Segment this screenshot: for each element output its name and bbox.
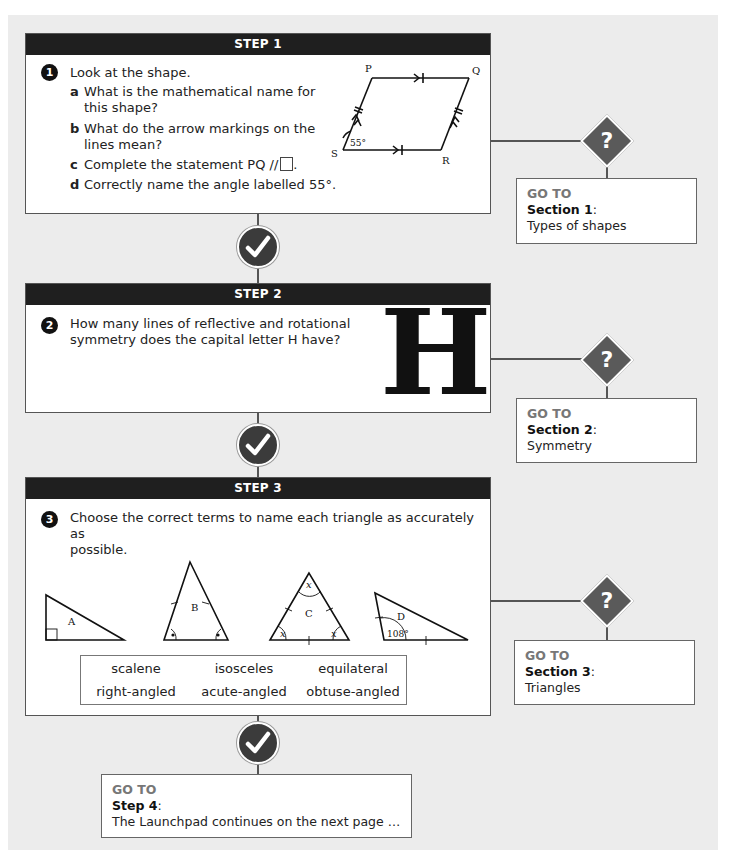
part-text: this shape? bbox=[70, 100, 158, 115]
goto-label: GO TO bbox=[527, 186, 686, 202]
vertex-q: Q bbox=[472, 65, 480, 76]
goto-desc: The Launchpad continues on the next page… bbox=[112, 814, 401, 830]
angle-dot bbox=[216, 633, 219, 636]
triangle-a bbox=[46, 595, 124, 640]
triangles-diagram: A B C x x x D 108° bbox=[26, 556, 486, 656]
triangle-b bbox=[164, 562, 228, 640]
goto-label: GO TO bbox=[525, 648, 684, 664]
vertex-r: R bbox=[442, 155, 450, 166]
question-line: How many lines of reflective and rotatio… bbox=[70, 316, 350, 331]
part-letter: b bbox=[70, 121, 84, 137]
vertex-p: P bbox=[365, 63, 372, 74]
question-number: 1 bbox=[41, 64, 58, 81]
question-text: Look at the shape. bbox=[70, 65, 191, 81]
part-text: Complete the statement PQ // bbox=[84, 157, 278, 172]
step-2-box: STEP 2 2 How many lines of reflective an… bbox=[25, 283, 491, 413]
question-mark: ? bbox=[583, 577, 631, 625]
goto-section-3[interactable]: GO TO Section 3: Triangles bbox=[514, 640, 695, 705]
part-d: dCorrectly name the angle labelled 55°. bbox=[70, 177, 336, 193]
label-c: C bbox=[305, 608, 313, 619]
term-isosceles[interactable]: isosceles bbox=[189, 661, 299, 676]
step-1-box: STEP 1 1 Look at the shape. aWhat is the… bbox=[25, 33, 491, 214]
term-obtuse-angled[interactable]: obtuse-angled bbox=[298, 684, 408, 699]
part-letter: d bbox=[70, 177, 84, 193]
question-text: Choose the correct terms to name each tr… bbox=[70, 510, 490, 558]
question-mark: ? bbox=[583, 117, 631, 165]
terms-box: scalene isosceles equilateral right-angl… bbox=[80, 655, 407, 705]
angle-label: 55° bbox=[350, 138, 366, 148]
answer-box[interactable] bbox=[280, 157, 293, 171]
question-number: 2 bbox=[41, 317, 58, 334]
angle-x: x bbox=[306, 579, 312, 590]
label-a: A bbox=[67, 616, 76, 627]
angle-x: x bbox=[280, 628, 286, 639]
term-right-angled[interactable]: right-angled bbox=[81, 684, 191, 699]
label-d: D bbox=[397, 611, 405, 622]
question-line: symmetry does the capital letter H have? bbox=[70, 332, 340, 347]
goto-section-1[interactable]: GO TO Section 1: Types of shapes bbox=[516, 178, 697, 244]
question-text: How many lines of reflective and rotatio… bbox=[70, 316, 350, 348]
angle-dot bbox=[171, 633, 174, 636]
goto-target: Section 2 bbox=[527, 422, 593, 437]
check-circle-icon bbox=[237, 722, 279, 764]
part-text: What is the mathematical name for bbox=[84, 84, 315, 99]
part-b: bWhat do the arrow markings on the lines… bbox=[70, 121, 315, 153]
question-line: Choose the correct terms to name each tr… bbox=[70, 510, 474, 541]
side-qr bbox=[441, 78, 469, 150]
goto-target: Section 3 bbox=[525, 664, 591, 679]
term-scalene[interactable]: scalene bbox=[81, 661, 191, 676]
question-number: 3 bbox=[41, 511, 58, 528]
term-equilateral[interactable]: equilateral bbox=[298, 661, 408, 676]
question-mark: ? bbox=[583, 336, 631, 384]
check-circle-icon bbox=[237, 226, 279, 268]
part-text: lines mean? bbox=[70, 137, 162, 152]
goto-desc: Triangles bbox=[525, 680, 684, 696]
part-letter: a bbox=[70, 84, 84, 100]
label-b: B bbox=[191, 602, 198, 613]
vertex-s: S bbox=[331, 148, 338, 159]
angle-x: x bbox=[331, 628, 337, 639]
goto-desc: Types of shapes bbox=[527, 218, 686, 234]
goto-section-2[interactable]: GO TO Section 2: Symmetry bbox=[516, 398, 697, 463]
goto-target: Section 1 bbox=[527, 202, 593, 217]
part-text: Correctly name the angle labelled 55°. bbox=[84, 177, 336, 192]
part-a: aWhat is the mathematical name for this … bbox=[70, 84, 315, 116]
goto-step-4[interactable]: GO TO Step 4: The Launchpad continues on… bbox=[101, 774, 412, 838]
goto-label: GO TO bbox=[112, 782, 401, 798]
part-c: cComplete the statement PQ //. bbox=[70, 157, 297, 173]
goto-label: GO TO bbox=[527, 406, 686, 422]
check-circle-icon bbox=[237, 424, 279, 466]
part-text: What do the arrow markings on the bbox=[84, 121, 315, 136]
question-line: possible. bbox=[70, 542, 127, 557]
capital-letter-h: H bbox=[380, 294, 492, 412]
parallelogram-diagram: P Q R S 55° bbox=[321, 54, 491, 174]
goto-target: Step 4 bbox=[112, 798, 157, 813]
step-3-header: STEP 3 bbox=[26, 478, 490, 499]
part-letter: c bbox=[70, 157, 84, 173]
angle-108: 108° bbox=[387, 629, 409, 639]
term-acute-angled[interactable]: acute-angled bbox=[189, 684, 299, 699]
step-1-header: STEP 1 bbox=[26, 34, 490, 55]
goto-desc: Symmetry bbox=[527, 438, 686, 454]
